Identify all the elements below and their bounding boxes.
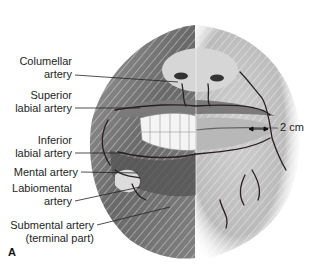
scale-label: 2 cm [280, 121, 304, 133]
label-line: Superior [0, 89, 72, 102]
label-line: Columellar [0, 55, 72, 68]
label-line: Labiomental [0, 182, 72, 195]
label-columellar-artery: Columellar artery [0, 55, 72, 81]
label-mental-artery: Mental artery [0, 166, 78, 179]
label-line: (terminal part) [0, 232, 94, 245]
anatomy-figure: Columellar artery Superior labial artery… [0, 0, 317, 265]
panel-letter: A [8, 246, 16, 258]
label-line: Submental artery [0, 219, 94, 232]
label-inferior-labial-artery: Inferior labial artery [0, 134, 72, 160]
label-line: artery [0, 68, 72, 81]
nose [162, 48, 238, 92]
label-line: artery [0, 195, 72, 208]
label-line: Mental artery [0, 166, 78, 179]
label-submental-artery: Submental artery (terminal part) [0, 219, 94, 245]
label-line: labial artery [0, 102, 72, 115]
label-line: Inferior [0, 134, 72, 147]
label-labiomental-artery: Labiomental artery [0, 182, 72, 208]
label-line: labial artery [0, 147, 72, 160]
label-superior-labial-artery: Superior labial artery [0, 89, 72, 115]
